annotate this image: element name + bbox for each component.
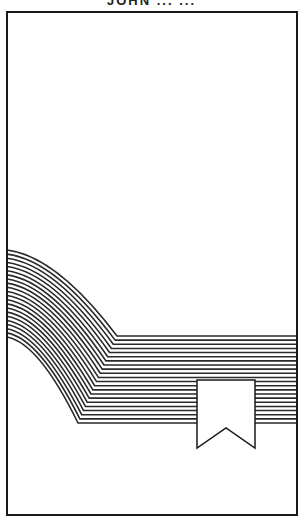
stripe-line <box>7 250 297 336</box>
bookmark-ribbon-icon <box>197 380 255 448</box>
book-cover-illustration <box>0 0 303 530</box>
